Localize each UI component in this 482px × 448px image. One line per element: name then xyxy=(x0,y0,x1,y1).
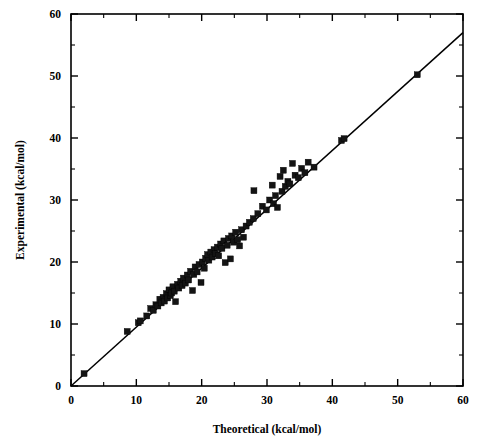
data-point xyxy=(263,207,269,213)
x-tick-label: 0 xyxy=(68,394,74,406)
data-point xyxy=(251,188,257,194)
data-point xyxy=(190,288,196,294)
data-point xyxy=(237,243,243,249)
x-tick-label: 50 xyxy=(392,394,404,406)
data-point xyxy=(144,313,150,319)
data-point xyxy=(137,318,143,324)
data-point xyxy=(305,159,311,165)
y-tick-label: 60 xyxy=(50,8,62,20)
data-point xyxy=(277,173,283,179)
y-axis-tick-labels: 0102030405060 xyxy=(50,8,62,392)
data-point xyxy=(295,175,301,181)
data-point xyxy=(311,164,317,170)
y-tick-label: 0 xyxy=(55,380,61,392)
data-point xyxy=(341,136,347,142)
data-point xyxy=(173,299,179,305)
y-axis-title: Experimental (kcal/mol) xyxy=(14,140,27,260)
data-point xyxy=(186,277,192,283)
data-point xyxy=(224,242,230,248)
y-tick-label: 20 xyxy=(50,256,62,268)
plot-svg: 0102030405060 0102030405060 Theoretical … xyxy=(0,0,482,448)
data-point xyxy=(235,237,241,243)
y-tick-label: 40 xyxy=(50,132,62,144)
y-tick-label: 30 xyxy=(50,194,62,206)
x-tick-label: 30 xyxy=(261,394,273,406)
x-tick-label: 40 xyxy=(327,394,339,406)
y-tick-label: 10 xyxy=(50,318,62,330)
x-tick-label: 60 xyxy=(457,394,469,406)
data-point xyxy=(269,182,275,188)
data-point xyxy=(227,256,233,262)
y-tick-label: 50 xyxy=(50,70,62,82)
x-axis-tick-labels: 0102030405060 xyxy=(68,394,469,406)
data-point xyxy=(272,193,278,199)
data-point xyxy=(302,170,308,176)
data-point xyxy=(280,167,286,173)
data-point xyxy=(287,181,293,187)
data-point xyxy=(194,269,200,275)
data-point xyxy=(240,234,246,240)
data-point xyxy=(289,160,295,166)
data-point xyxy=(216,253,222,259)
scatter-plot-figure: 0102030405060 0102030405060 Theoretical … xyxy=(0,0,482,448)
data-point xyxy=(201,265,207,271)
x-axis-title: Theoretical (kcal/mol) xyxy=(213,423,322,436)
data-point xyxy=(198,279,204,285)
data-point xyxy=(414,72,420,78)
data-point xyxy=(233,229,239,235)
x-tick-label: 20 xyxy=(196,394,208,406)
x-tick-label: 10 xyxy=(131,394,143,406)
data-point xyxy=(81,371,87,377)
data-point xyxy=(124,328,130,334)
data-point xyxy=(274,204,280,210)
data-point xyxy=(255,211,261,217)
